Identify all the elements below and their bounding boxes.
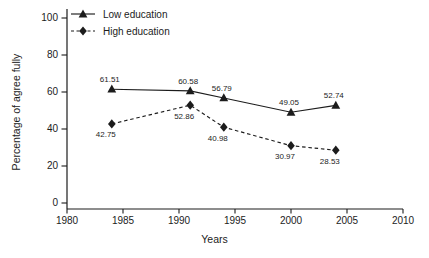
legend: Low education High education: [71, 7, 170, 38]
high-education-marker: [186, 101, 194, 110]
y-tick-label: 20: [47, 160, 59, 171]
chart-figure: 0204060801001980198519901995200020052010…: [0, 0, 429, 258]
x-tick-label: 2000: [280, 215, 303, 226]
x-tick-label: 1995: [224, 215, 247, 226]
y-tick-label: 60: [47, 86, 59, 97]
x-tick-label: 1990: [168, 215, 191, 226]
data-point-label: 56.79: [212, 84, 233, 93]
low-education-marker: [107, 85, 116, 93]
data-point-label: 52.86: [174, 112, 195, 121]
data-point-label: 52.74: [324, 91, 345, 100]
y-axis-title: Percentage of agree fully: [10, 54, 22, 171]
data-point-label: 49.05: [279, 98, 300, 107]
low-education-marker: [331, 101, 340, 109]
data-point-label: 61.51: [100, 75, 121, 84]
legend-item-low-education: Low education: [71, 7, 170, 21]
y-tick-label: 80: [47, 49, 59, 60]
x-tick-label: 1985: [112, 215, 135, 226]
data-point-label: 30.97: [275, 152, 296, 161]
legend-label-low-education: Low education: [103, 9, 168, 20]
y-tick-label: 40: [47, 123, 59, 134]
plot-area: 0204060801001980198519901995200020052010…: [0, 0, 429, 258]
data-point-label: 40.98: [208, 134, 229, 143]
x-tick-label: 2010: [392, 215, 415, 226]
x-axis-title: Years: [0, 233, 429, 245]
legend-item-high-education: High education: [71, 24, 170, 38]
high-education-line-marker-icon: [71, 25, 95, 37]
legend-marker: [79, 26, 87, 35]
y-tick-label: 100: [41, 12, 58, 23]
legend-marker: [79, 9, 88, 17]
data-point-label: 42.75: [96, 130, 117, 139]
high-education-marker: [108, 119, 116, 128]
data-point-label: 60.58: [178, 77, 199, 86]
legend-label-high-education: High education: [103, 26, 170, 37]
high-education-marker: [220, 123, 228, 132]
low-education-line-marker-icon: [71, 8, 95, 20]
data-point-label: 28.53: [320, 157, 341, 166]
x-tick-label: 1980: [56, 215, 79, 226]
x-tick-label: 2005: [336, 215, 359, 226]
y-tick-label: 0: [52, 197, 58, 208]
high-education-marker: [287, 141, 295, 150]
high-education-marker: [332, 146, 340, 155]
